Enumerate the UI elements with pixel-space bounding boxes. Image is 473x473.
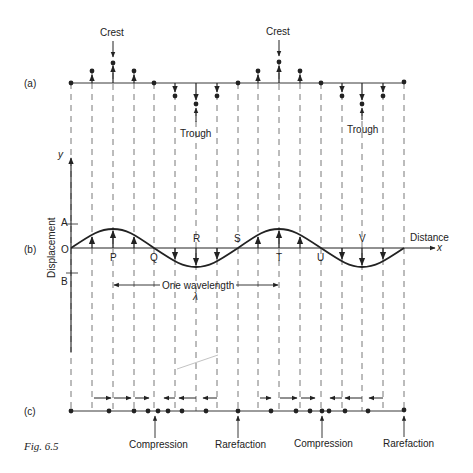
point-label-R: R (193, 233, 200, 244)
particle (236, 81, 241, 86)
row-label-a: (a) (24, 78, 36, 89)
x-axis-title: Distance (410, 232, 449, 243)
panel-c: (c) (24, 398, 434, 450)
point-label-U: U (317, 252, 324, 263)
particle (69, 81, 74, 86)
x-axis-symbol: x (436, 242, 443, 253)
compression-label-1: Compression (129, 439, 188, 450)
stray-mark (177, 355, 218, 369)
transverse-longitudinal-wave-diagram: (a) Crest Crest (0, 0, 473, 473)
point-label-P: P (110, 252, 117, 263)
row-label-c: (c) (24, 406, 36, 417)
medium-particles (69, 408, 407, 414)
panel-a: (a) Crest Crest (24, 26, 406, 139)
compression-label-2: Compression (294, 438, 353, 449)
point-label-V: V (359, 233, 366, 244)
crest-pointers (113, 40, 279, 57)
point-label-S: S (234, 233, 241, 244)
level-label-O: O (61, 244, 69, 255)
compression-rarefaction-pointers (155, 416, 404, 438)
y-axis-symbol: y (57, 149, 64, 160)
particle (319, 81, 324, 86)
point-label-Q: Q (150, 252, 158, 263)
row-label-b: (b) (24, 244, 36, 255)
wavelength-symbol: λ (192, 291, 198, 302)
panel-b: (b) y Displacement A O B Distance x (24, 149, 449, 352)
rarefaction-label-1: Rarefaction (215, 439, 266, 450)
up-displacement-arrows (92, 66, 300, 83)
trough-label-1: Trough (180, 128, 211, 139)
displaced-particles-up (90, 60, 303, 74)
level-label-B: B (61, 276, 68, 287)
particle (402, 80, 407, 85)
point-label-T: T (276, 252, 282, 263)
particle (152, 81, 157, 86)
level-label-A: A (61, 217, 68, 228)
figure-caption: Fig. 6.5 (23, 440, 59, 452)
y-axis-title: Displacement (46, 217, 57, 278)
crest-label-2: Crest (266, 26, 290, 37)
wavelength-label: One wavelength (162, 280, 234, 291)
trough-label-2: Trough (347, 124, 378, 135)
crest-label-1: Crest (100, 27, 124, 38)
rarefaction-label-2: Rarefaction (383, 438, 434, 449)
